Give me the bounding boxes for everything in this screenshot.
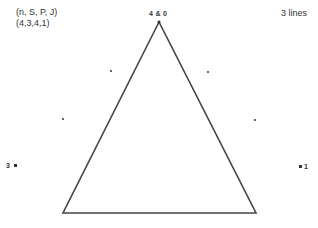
point-dot bbox=[207, 71, 209, 73]
triangle-diagram bbox=[0, 0, 318, 228]
point-dot bbox=[62, 118, 64, 120]
point-dot bbox=[110, 70, 112, 72]
triangle bbox=[63, 22, 256, 213]
point-dot bbox=[299, 165, 302, 168]
point-dot bbox=[14, 164, 17, 167]
apex-dot bbox=[158, 21, 161, 24]
point-dot bbox=[254, 119, 256, 121]
